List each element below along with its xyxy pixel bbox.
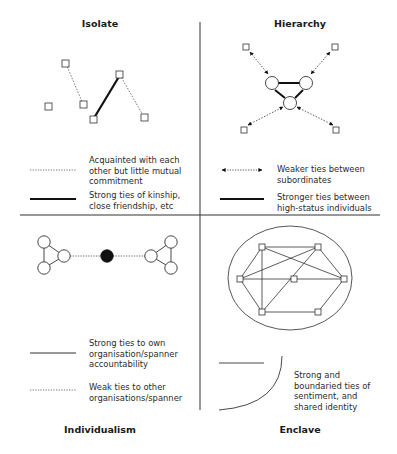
enclave-network (228, 226, 352, 330)
individualism-legend-solid-label: Strong ties to own organisation/spanner … (89, 338, 189, 370)
isolate-network (45, 60, 148, 123)
enclave-legend-label: Strong and boundaried ties of sentiment,… (294, 370, 374, 412)
hierarchy-title: Hierarchy (200, 18, 397, 29)
legend-boundary-arc (219, 356, 282, 410)
individualism-network (38, 236, 177, 274)
individualism-legend-dotted-label: Weak ties to other organisations/spanner (89, 382, 189, 403)
isolate-legend-thick-label: Strong ties of kinship, close friendship… (89, 190, 189, 211)
individualism-title: Individualism (0, 424, 200, 435)
isolate-title: Isolate (0, 18, 200, 29)
isolate-legend-dotted-label: Acquainted with each other but little mu… (89, 155, 189, 187)
hierarchy-legend-arrow-label: Weaker ties between subordinates (277, 164, 387, 185)
hierarchy-network (241, 44, 339, 133)
enclave-title: Enclave (200, 424, 397, 435)
hierarchy-legend-thick-label: Stronger ties between high-status indivi… (277, 192, 387, 213)
